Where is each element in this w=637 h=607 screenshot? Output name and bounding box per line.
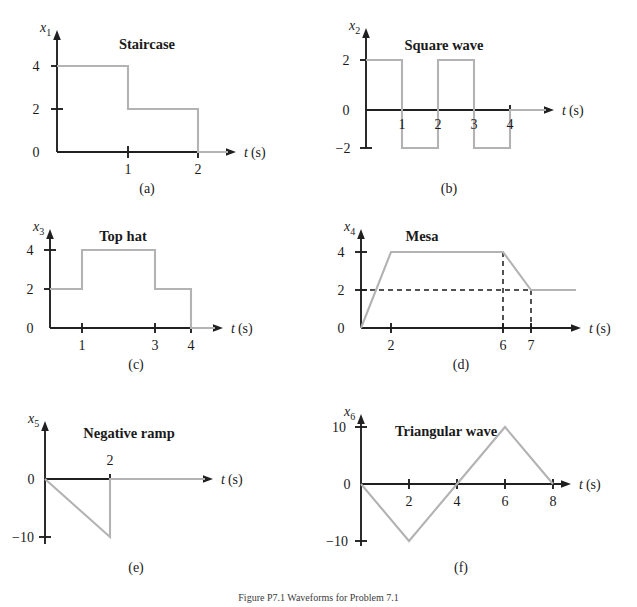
x-tick-label-3-c: 3 [152,338,159,353]
waveform-a [57,66,228,152]
y-tick-label-4-c: 4 [27,243,34,258]
y-axis-arrow-a [53,30,61,40]
figure-root: x1 4 2 0 1 2 t(s) Staircase (a) [0,0,637,607]
figure-caption: Figure P7.1 Waveforms for Problem 7.1 [0,592,637,603]
y-axis-label-b: x2 [348,18,360,36]
y-tick-label-2-a: 2 [33,102,40,117]
y-axis-arrow-e [41,421,49,431]
x-tick-label-2-d: 2 [388,338,395,353]
x-axis-label-f: t(s) [579,477,601,493]
y-axis-label-e: x5 [27,411,39,429]
chart-c-svg: x3 4 2 0 1 3 4 t(s) Top hat (c) [0,197,318,394]
x-tick-label-4-b: 4 [507,117,514,132]
x-tick-label-3-b: 3 [471,117,478,132]
x-tick-label-2-e: 2 [107,453,114,468]
chart-a-svg: x1 4 2 0 1 2 t(s) Staircase (a) [0,0,318,197]
y-axis-label-d: x4 [343,219,355,237]
x-axis-label-d: t(s) [589,321,611,337]
y-tick-label-neg10-e: −10 [12,530,34,545]
wave-title-c: Top hat [99,228,147,244]
panel-letter-d: (d) [453,357,470,373]
panel-letter-a: (a) [139,181,155,197]
y-axis-label-a: x1 [39,20,51,38]
x-tick-label-2-a: 2 [195,162,202,177]
y-tick-label-neg2-b: −2 [336,141,351,156]
y-tick-label-0-f: 0 [344,477,351,492]
wave-title-d: Mesa [405,228,439,244]
y-tick-label-neg10-f: −10 [326,534,348,549]
y-tick-label-0-d: 0 [338,321,345,336]
panel-letter-f: (f) [454,560,468,576]
panel-d-mesa: x4 4 2 0 2 6 7 t(s) Mesa (d) [318,197,636,394]
x-tick-label-4-c: 4 [188,338,195,353]
panel-b-square-wave: x2 2 0 −2 1 2 3 4 t(s) Square wave (b) [318,0,636,197]
y-tick-label-2-b: 2 [343,53,350,68]
waveform-d [361,252,576,328]
y-axis-label-c: x3 [32,219,44,237]
y-axis-arrow-c [46,229,54,239]
x-tick-label-8-f: 8 [550,494,557,509]
wave-title-b: Square wave [404,37,484,53]
y-axis-arrow-b [362,28,370,38]
chart-e-svg: x5 0 −10 2 t(s) Negative ramp (e) [0,394,318,591]
x-axis-label-a: t(s) [244,145,266,161]
y-tick-label-4-a: 4 [33,59,40,74]
x-tick-label-1-b: 1 [399,117,406,132]
x-tick-label-6-f: 6 [502,494,509,509]
y-tick-label-10-f: 10 [332,420,346,435]
x-axis-label-b: t(s) [562,103,584,119]
y-tick-label-0-e: 0 [28,472,35,487]
x-tick-label-7-d: 7 [528,338,535,353]
y-axis-arrow-d [357,229,365,239]
x-axis-arrow-d [571,324,581,332]
y-tick-label-4-d: 4 [338,245,345,260]
panel-letter-b: (b) [441,181,458,197]
x-tick-label-2-b: 2 [435,117,442,132]
y-tick-label-0-b: 0 [343,103,350,118]
chart-d-svg: x4 4 2 0 2 6 7 t(s) Mesa (d) [318,197,636,394]
panel-letter-c: (c) [128,357,144,373]
waveform-c [50,250,215,328]
chart-f-svg: x6 10 0 −10 2 4 6 8 t(s) Triangular wave… [318,394,636,591]
panel-a-staircase: x1 4 2 0 1 2 t(s) Staircase (a) [0,0,318,197]
panel-letter-e: (e) [128,560,144,576]
wave-title-f: Triangular wave [395,423,498,439]
x-axis-label-c: t(s) [231,321,253,337]
chart-b-svg: x2 2 0 −2 1 2 3 4 t(s) Square wave (b) [318,0,636,197]
x-tick-label-1-a: 1 [125,162,132,177]
y-tick-label-2-d: 2 [338,283,345,298]
x-tick-label-6-d: 6 [500,338,507,353]
y-tick-label-0-c: 0 [27,321,34,336]
y-tick-label-0-a: 0 [33,145,40,160]
x-tick-label-4-f: 4 [454,494,461,509]
wave-title-e: Negative ramp [83,425,174,441]
y-axis-arrow-f [357,414,365,424]
x-axis-label-e: t(s) [221,472,243,488]
y-tick-label-2-c: 2 [27,282,34,297]
panel-e-negative-ramp: x5 0 −10 2 t(s) Negative ramp (e) [0,394,318,591]
panel-f-triangular-wave: x6 10 0 −10 2 4 6 8 t(s) Triangular wave… [318,394,636,591]
panel-c-top-hat: x3 4 2 0 1 3 4 t(s) Top hat (c) [0,197,318,394]
wave-title-a: Staircase [119,36,176,52]
waveform-b [366,60,546,148]
x-axis-arrow-f [561,480,571,488]
x-tick-label-1-c: 1 [79,338,86,353]
x-tick-label-2-f: 2 [406,494,413,509]
waveform-e [45,479,205,537]
